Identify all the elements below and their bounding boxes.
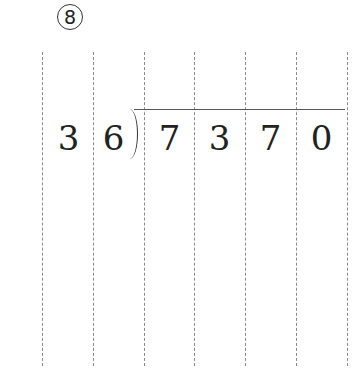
dividend-digit: 7 [245, 118, 296, 158]
dividend-digit: 7 [144, 118, 195, 158]
column-guide-line [144, 52, 145, 366]
divisor-digit: 3 [43, 118, 94, 158]
dividend-digit: 3 [194, 118, 245, 158]
column-guide-line [347, 52, 348, 366]
column-guide-line [194, 52, 195, 366]
column-guide-line [296, 52, 297, 366]
problem-number-badge: 8 [57, 4, 83, 30]
column-guide-line [42, 52, 43, 366]
dividend-digit: 0 [296, 118, 347, 158]
division-vinculum [134, 109, 345, 110]
problem-number: 8 [64, 6, 76, 28]
column-guide-line [93, 52, 94, 366]
column-guide-line [245, 52, 246, 366]
